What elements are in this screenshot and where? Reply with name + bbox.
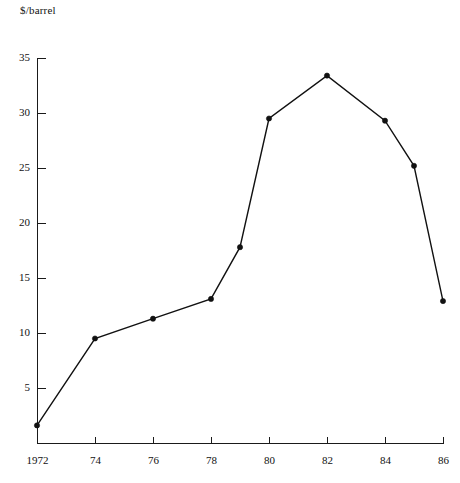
tick-marks-group xyxy=(38,59,444,444)
series-line-dollar-per-barrel xyxy=(37,76,443,426)
axes-group xyxy=(38,58,444,444)
x-tick-label: 1972 xyxy=(16,454,60,466)
x-tick-label: 78 xyxy=(190,454,234,466)
data-point-marker xyxy=(411,163,416,168)
data-point-marker xyxy=(34,423,39,428)
x-tick-label: 76 xyxy=(132,454,176,466)
data-point-marker xyxy=(92,336,97,341)
y-tick-label: 15 xyxy=(0,271,30,283)
data-point-marker xyxy=(440,299,445,304)
y-tick-label: 35 xyxy=(0,51,30,63)
x-tick-label: 80 xyxy=(248,454,292,466)
series-markers-group xyxy=(34,73,445,428)
y-tick-label: 10 xyxy=(0,326,30,338)
y-tick-label: 30 xyxy=(0,106,30,118)
data-point-marker xyxy=(150,316,155,321)
x-tick-label: 82 xyxy=(306,454,350,466)
oil-price-line-chart: $/barrel 5101520253035 19727476788082848… xyxy=(0,0,460,483)
x-tick-label: 74 xyxy=(74,454,118,466)
x-tick-label: 84 xyxy=(364,454,408,466)
data-point-marker xyxy=(237,245,242,250)
x-tick-label: 86 xyxy=(422,454,460,466)
data-point-marker xyxy=(382,118,387,123)
plot-area xyxy=(0,0,460,483)
y-tick-label: 5 xyxy=(0,381,30,393)
data-point-marker xyxy=(324,73,329,78)
y-tick-label: 25 xyxy=(0,161,30,173)
y-tick-label: 20 xyxy=(0,216,30,228)
data-point-marker xyxy=(208,296,213,301)
data-point-marker xyxy=(266,116,271,121)
